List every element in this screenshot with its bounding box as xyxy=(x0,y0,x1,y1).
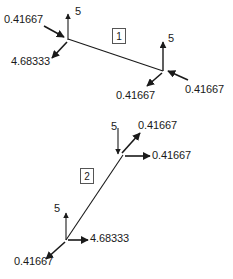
element-1-node-left-force-axial-label: 0.41667 xyxy=(4,14,43,25)
element-2-node-top-force-horizontal-label: 0.41667 xyxy=(152,150,191,161)
element-1-node-left-force-shear xyxy=(52,42,67,58)
element-2-number-box: 2 xyxy=(80,168,94,184)
element-2-node-top-force-vertical-label: 5 xyxy=(111,121,117,132)
element-1-node-right-force-shear xyxy=(147,73,162,86)
element-2-member xyxy=(66,155,123,240)
element-2-node-bottom-force-horizontal-label: 4.68333 xyxy=(90,233,129,244)
element-1-node-left-force-shear-label: 4.68333 xyxy=(11,56,50,67)
element-2-node-bottom-force-vertical-label: 5 xyxy=(54,203,60,214)
element-1-node-right-force-vertical-label: 5 xyxy=(168,33,174,44)
element-1-node-left-force-vertical-label: 5 xyxy=(75,6,81,17)
force-diagram-canvas: 5 0.41667 4.68333 5 0.41667 0.41667 1 5 … xyxy=(0,0,233,279)
element-1-node-right-force-shear-label: 0.41667 xyxy=(116,90,155,101)
element-2-node-top-force-diagonal xyxy=(122,133,140,153)
element-2-node-top-force-diagonal-label: 0.41667 xyxy=(138,120,177,131)
element-1-node-right-force-axial-label: 0.41667 xyxy=(185,84,224,95)
element-1-number-box: 1 xyxy=(112,28,126,44)
element-1-node-right-force-axial xyxy=(168,71,188,80)
element-1-group xyxy=(44,14,188,86)
element-2-node-bottom-force-diagonal-label: 0.41667 xyxy=(14,256,53,267)
element-1-node-left-force-axial xyxy=(44,26,64,37)
